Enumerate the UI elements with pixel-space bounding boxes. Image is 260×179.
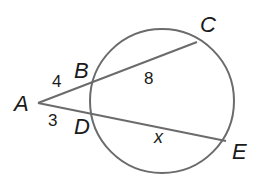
measure-de: x [153, 127, 164, 147]
measure-ad: 3 [48, 111, 57, 130]
point-label-b: B [74, 58, 89, 83]
circle [90, 29, 234, 173]
measure-bc: 8 [144, 69, 153, 88]
point-label-e: E [232, 139, 247, 164]
secant-abc [38, 42, 197, 103]
measure-ab: 4 [52, 72, 61, 91]
point-label-a: A [12, 91, 29, 116]
point-label-d: D [74, 114, 90, 139]
point-label-c: C [200, 12, 216, 37]
secant-diagram: A B C D E 4 8 3 x [0, 0, 260, 179]
secant-ade [38, 103, 226, 141]
